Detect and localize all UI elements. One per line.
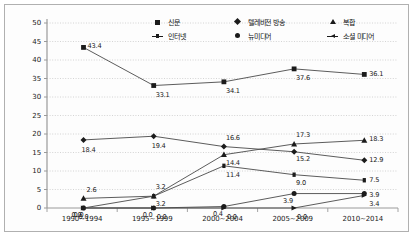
y-axis-tick-label: 15 [19,149,41,157]
data-point-label: 0.0 [157,213,167,221]
y-axis-tick-label: 45 [19,38,41,46]
data-point-label: 18.3 [369,135,383,143]
data-point-label: 34.1 [226,87,240,95]
data-point-label: 3.4 [369,200,379,208]
y-axis-tick-label: 20 [19,130,41,138]
legend-item-social-media[interactable]: 소셜 미디어 [326,29,386,43]
y-axis-tick-label: 25 [19,112,41,120]
legend-label: 인터넷 [168,31,185,41]
y-axis-tick-label: 10 [19,167,41,175]
y-axis-tick-label: 35 [19,75,41,83]
y-axis-tick-label: 5 [19,186,41,194]
circle-marker-icon [231,31,245,41]
data-point-label: 17.3 [296,131,310,139]
data-point-label: 43.4 [88,42,102,50]
data-point-label: 19.4 [152,142,166,150]
x-axis-tick-label: 2005~2009 [258,215,328,223]
data-point-label: 3.9 [283,197,293,205]
data-point-label: 3.2 [156,183,166,191]
legend-label: 신문 [168,17,180,27]
legend-label: 복합 [343,17,355,27]
legend-label: 텔레비전 방송 [248,17,285,27]
legend-label: 소셜 미디어 [343,31,374,41]
data-point-label: 0.0 [227,213,237,221]
data-point-label: 14.4 [226,159,240,167]
triangle-marker-icon [326,17,340,27]
data-point-label: 18.4 [82,146,96,154]
legend-item-internet[interactable]: 인터넷 [151,29,231,43]
y-axis-tick-label: 0 [19,204,41,212]
chart-frame: 신문 텔레비전 방송 복합 인터넷 뉴미디어 소셜 미디어 0510152025… [4,4,409,232]
data-point-label: 0.0 [79,213,89,221]
x-axis-tick-label: 2010~2014 [328,215,398,223]
dash-marker-icon [151,31,165,41]
data-point-label: 9.0 [296,179,306,187]
legend-item-composite[interactable]: 복합 [326,15,386,29]
square-marker-icon [151,17,165,27]
legend-item-television[interactable]: 텔레비전 방송 [231,15,326,29]
y-axis-tick-label: 50 [19,19,41,27]
data-point-label: 15.2 [296,155,310,163]
data-point-label: 37.6 [296,74,310,82]
data-point-label: 0.0 [143,211,153,219]
dash-arrow-marker-icon [326,31,340,41]
data-point-label: 36.1 [369,70,383,78]
data-point-label: 7.5 [369,176,379,184]
data-point-label: 3.9 [369,191,379,199]
y-axis-tick-label: 30 [19,93,41,101]
data-point-label: 33.1 [156,91,170,99]
data-point-label: 12.9 [369,156,383,164]
legend-item-newspaper[interactable]: 신문 [151,15,231,29]
y-axis-tick-label: 40 [19,56,41,64]
diamond-marker-icon [231,17,245,27]
data-point-label: 2.6 [87,186,97,194]
legend-item-new-media[interactable]: 뉴미디어 [231,29,326,43]
data-point-label: 0.0 [297,213,307,221]
data-point-label: 3.2 [156,200,166,208]
data-point-label: 11.4 [226,171,240,179]
data-point-label: 16.6 [226,134,240,142]
chart-legend: 신문 텔레비전 방송 복합 인터넷 뉴미디어 소셜 미디어 [151,15,387,43]
legend-label: 뉴미디어 [248,31,271,41]
data-point-label: 0.4 [213,210,223,218]
